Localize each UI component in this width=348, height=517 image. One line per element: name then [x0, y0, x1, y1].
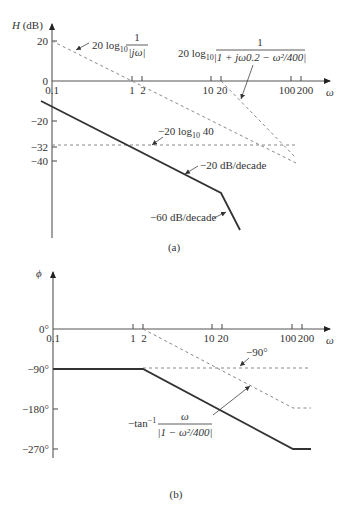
- x-ticks: 0.1 1 2 10 20 100 200: [45, 76, 314, 96]
- svg-text:0.1: 0.1: [46, 332, 60, 344]
- svg-text:−tan−1: −tan−1: [128, 416, 156, 429]
- x-axis-label: ω: [326, 334, 334, 346]
- svg-text:100: 100: [280, 332, 297, 344]
- integrator-phase-annotation: −90°: [240, 346, 268, 366]
- svg-text:20 log10: 20 log10: [92, 39, 128, 54]
- svg-text:200: 200: [297, 84, 314, 96]
- constant-annotation: −20 log10 40: [152, 125, 214, 145]
- svg-text:10: 10: [204, 332, 216, 344]
- svg-text:−20: −20: [31, 115, 49, 127]
- svg-text:20 log10: 20 log10: [178, 47, 214, 62]
- magnitude-plot: H (dB) ω 20 0 −20 −32 −40 0.1 1 2 10 20: [11, 19, 334, 254]
- y-ticks: 20 0 −20 −32 −40: [31, 35, 57, 167]
- svg-text:1: 1: [257, 36, 263, 48]
- svg-text:−32: −32: [31, 141, 48, 153]
- bode-plot-figure: H (dB) ω 20 0 −20 −32 −40 0.1 1 2 10 20: [0, 0, 348, 517]
- slope-annotations: −20 dB/decade −60 dB/decade: [150, 159, 266, 223]
- svg-text:−180°: −180°: [22, 403, 49, 415]
- svg-text:1: 1: [134, 31, 140, 43]
- svg-text:20: 20: [37, 35, 49, 47]
- svg-text:−20 log10 40: −20 log10 40: [158, 125, 214, 140]
- svg-text:−40: −40: [31, 155, 49, 167]
- caption-a: (a): [168, 241, 181, 254]
- svg-text:10: 10: [203, 84, 215, 96]
- svg-text:|1 + jω0.2 − ω²/400|: |1 + jω0.2 − ω²/400|: [214, 51, 307, 63]
- y-axis-label: ϕ: [36, 267, 42, 279]
- svg-text:1: 1: [130, 332, 136, 344]
- svg-text:0.1: 0.1: [45, 84, 59, 96]
- svg-text:−90°: −90°: [246, 346, 268, 358]
- svg-text:−270°: −270°: [22, 443, 49, 455]
- svg-text:20: 20: [218, 332, 230, 344]
- svg-text:2: 2: [141, 332, 147, 344]
- svg-text:−90°: −90°: [27, 363, 49, 375]
- y-axis-label: H (dB): [11, 19, 43, 32]
- svg-text:100: 100: [279, 84, 296, 96]
- svg-text:2: 2: [140, 84, 146, 96]
- svg-text:−20 dB/decade: −20 dB/decade: [200, 159, 266, 171]
- svg-text:ω: ω: [181, 410, 189, 422]
- phase-plot: ϕ ω 0° −90° −180° −270° 0.1 1 2 10 20 10…: [22, 267, 334, 501]
- svg-text:|1 − ω²/400|: |1 − ω²/400|: [157, 426, 212, 438]
- svg-text:|jω|: |jω|: [129, 46, 146, 58]
- caption-b: (b): [170, 488, 183, 501]
- x-ticks: 0.1 1 2 10 20 100 200: [46, 324, 315, 344]
- svg-text:200: 200: [298, 332, 315, 344]
- svg-text:1: 1: [129, 84, 135, 96]
- svg-text:−60 dB/decade: −60 dB/decade: [150, 211, 216, 223]
- x-axis-label: ω: [326, 86, 334, 98]
- integrator-annotation: 20 log10 1 |jω|: [76, 31, 148, 58]
